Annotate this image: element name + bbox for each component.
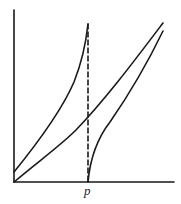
diagram-canvas bbox=[0, 0, 181, 204]
p-label: p bbox=[84, 183, 91, 199]
diagram: p bbox=[0, 0, 181, 204]
left-convex-curve bbox=[14, 24, 88, 172]
diagonal-line bbox=[14, 23, 163, 182]
right-concave-curve bbox=[88, 31, 163, 182]
